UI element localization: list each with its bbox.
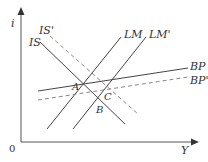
curve-label-is-prime: IS' — [38, 24, 54, 37]
curve-bp — [38, 68, 188, 91]
curve-label-lm-prime: LM' — [148, 28, 171, 41]
point-label-b: B — [95, 104, 103, 115]
y-axis-label: i — [11, 17, 15, 30]
curve-label-bp: BP — [189, 60, 206, 73]
intersection-points: ABC — [71, 81, 112, 115]
x-axis-label: Y — [181, 144, 190, 157]
curve-bp-prime — [38, 77, 188, 100]
curve-label-lm: LM — [123, 28, 143, 41]
origin-label: 0 — [9, 143, 15, 154]
curve-is — [40, 42, 125, 124]
y-axis-arrow-icon — [18, 7, 25, 15]
islm-bp-diagram: ISIS'LMLM'BPBP' ABC i Y 0 — [0, 0, 208, 162]
curves: ISIS'LMLM'BPBP' — [28, 24, 208, 129]
point-label-c: C — [104, 91, 112, 102]
curve-label-is: IS — [28, 36, 41, 49]
point-label-a: A — [71, 81, 79, 92]
curve-label-bp-prime: BP' — [189, 74, 208, 87]
x-axis-arrow-icon — [191, 139, 199, 146]
